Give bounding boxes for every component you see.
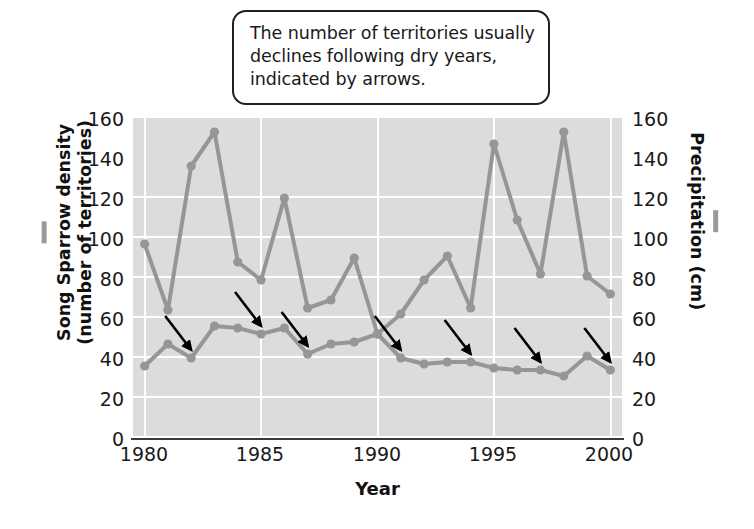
y-tick-right-40: 40 [632, 348, 692, 370]
data-point-marker [466, 357, 475, 366]
x-tick-1985: 1985 [220, 443, 300, 465]
y-tick-left-40: 40 [66, 348, 124, 370]
x-tick-2000: 2000 [569, 443, 649, 465]
plot-area [133, 118, 622, 438]
data-point-marker [419, 275, 428, 284]
y-tick-left-160: 160 [66, 108, 124, 130]
data-point-marker [303, 303, 312, 312]
data-point-marker [187, 161, 196, 170]
data-point-marker [326, 339, 335, 348]
data-point-marker [559, 127, 568, 136]
data-point-marker [443, 357, 452, 366]
callout-annotation: The number of territories usually declin… [232, 10, 550, 105]
data-point-marker [396, 353, 405, 362]
arrow-1994 [445, 320, 471, 354]
data-point-marker [606, 365, 615, 374]
data-point-marker [396, 309, 405, 318]
sparrow-density-line-series [140, 321, 615, 380]
data-point-marker [326, 295, 335, 304]
precipitation-legend-swatch-left [42, 221, 47, 243]
y-tick-left-20: 20 [66, 388, 124, 410]
precipitation-line-series [140, 127, 615, 338]
y-tick-right-100: 100 [632, 228, 692, 250]
data-point-marker [280, 323, 289, 332]
data-point-marker [536, 269, 545, 278]
data-point-marker [606, 289, 615, 298]
data-point-marker [163, 305, 172, 314]
y-tick-left-120: 120 [66, 188, 124, 210]
y-tick-left-80: 80 [66, 268, 124, 290]
series-polyline [145, 132, 611, 334]
data-point-marker [419, 359, 428, 368]
y-tick-right-140: 140 [632, 148, 692, 170]
y-tick-right-80: 80 [632, 268, 692, 290]
data-point-marker [489, 139, 498, 148]
data-point-marker [140, 361, 149, 370]
data-point-marker [513, 365, 522, 374]
arrow-1985 [235, 292, 261, 326]
y-tick-left-100: 100 [66, 228, 124, 250]
data-point-marker [582, 271, 591, 280]
data-point-marker [513, 215, 522, 224]
y-tick-left-60: 60 [66, 308, 124, 330]
data-point-marker [210, 127, 219, 136]
data-point-marker [350, 253, 359, 262]
callout-line-1: The number of territories usually [250, 22, 534, 45]
y-tick-right-120: 120 [632, 188, 692, 210]
data-point-marker [140, 239, 149, 248]
data-point-marker [256, 329, 265, 338]
data-point-marker [489, 363, 498, 372]
data-point-marker [559, 371, 568, 380]
data-point-marker [350, 337, 359, 346]
x-axis-title: Year [133, 478, 622, 499]
data-series-layer [133, 118, 622, 438]
precipitation-legend-swatch-right [713, 210, 718, 232]
y-tick-right-60: 60 [632, 308, 692, 330]
data-point-marker [187, 353, 196, 362]
x-tick-1995: 1995 [453, 443, 533, 465]
data-point-marker [443, 251, 452, 260]
data-point-marker [163, 339, 172, 348]
callout-line-2: declines following dry years, [250, 45, 534, 68]
y-tick-right-160: 160 [632, 108, 692, 130]
callout-line-3: indicated by arrows. [250, 68, 534, 91]
data-point-marker [303, 349, 312, 358]
x-axis-line [131, 438, 624, 440]
data-point-marker [582, 351, 591, 360]
data-point-marker [256, 275, 265, 284]
data-point-marker [233, 257, 242, 266]
data-point-marker [210, 321, 219, 330]
arrow-1997 [515, 328, 541, 362]
y-tick-right-20: 20 [632, 388, 692, 410]
data-point-marker [373, 329, 382, 338]
data-point-marker [466, 303, 475, 312]
y-tick-left-140: 140 [66, 148, 124, 170]
x-tick-1990: 1990 [337, 443, 417, 465]
data-point-marker [233, 323, 242, 332]
data-point-marker [536, 365, 545, 374]
x-tick-1980: 1980 [104, 443, 184, 465]
data-point-marker [280, 193, 289, 202]
chart-figure: The number of territories usually declin… [0, 0, 754, 529]
